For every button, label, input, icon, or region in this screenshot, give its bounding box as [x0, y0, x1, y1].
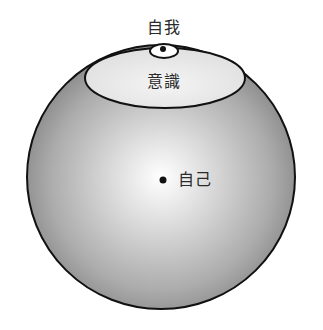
- self-dot: [160, 177, 167, 184]
- ego-dot: [160, 46, 166, 52]
- ego-label: 自我: [147, 19, 181, 37]
- psyche-diagram: [0, 0, 323, 330]
- consciousness-label: 意識: [147, 73, 181, 91]
- self-label: 自己: [178, 171, 212, 189]
